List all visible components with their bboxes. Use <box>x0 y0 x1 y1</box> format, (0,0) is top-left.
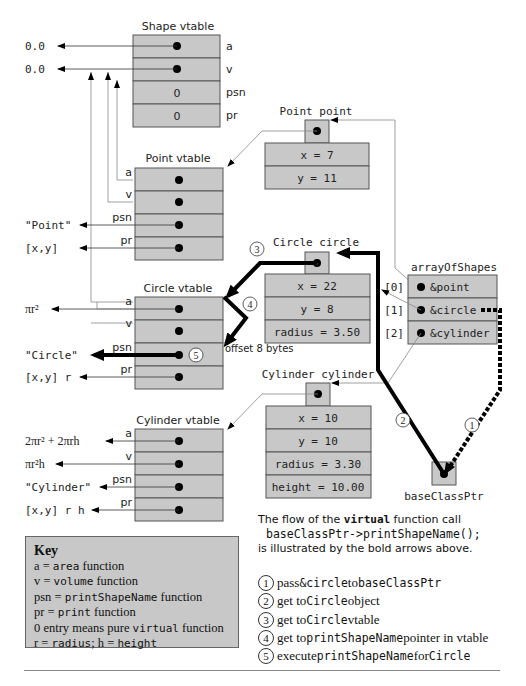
marker-3: 3 <box>255 244 260 255</box>
key-title: Key <box>34 543 230 559</box>
step-5: 5execute printShapeName for Circle <box>258 647 488 665</box>
slot-label-v: v <box>125 188 132 201</box>
array-value: &point <box>430 281 470 294</box>
field-height: height = 10.00 <box>272 481 365 494</box>
slot-label-v: v <box>125 317 132 330</box>
slot-label-a: a <box>226 40 233 53</box>
slot-label-a: a <box>125 295 132 308</box>
flow-call: baseClassPtr->printShapeName(); <box>258 527 526 541</box>
marker-4: 4 <box>248 299 253 310</box>
field-y: y = 8 <box>300 303 333 316</box>
cylinder-vtable: Cylinder vtable a v psn pr 2πr² + 2πrh π… <box>25 414 223 521</box>
marker-1: 1 <box>470 420 475 431</box>
slot-label-pr: pr <box>120 363 132 376</box>
point-vtable: Point vtable a v psn pr "Point" [x,y] <box>25 152 223 260</box>
cylinder-vtable-title: Cylinder vtable <box>136 414 220 427</box>
slot-label-a: a <box>125 427 132 440</box>
array-value: &cylinder <box>430 327 490 340</box>
slot-label-psn: psn <box>226 86 246 99</box>
field-radius: radius = 3.50 <box>274 326 360 339</box>
cylinder-area-result: 2πr² + 2πrh <box>25 434 79 448</box>
slot-label-v: v <box>226 63 233 76</box>
slot-label-pr: pr <box>120 496 132 509</box>
slot-label-pr: pr <box>226 109 238 122</box>
slot-label-a: a <box>125 166 132 179</box>
cylinder-object: Cylinder cylinder x = 10 y = 10 radius =… <box>228 368 375 498</box>
bottom-rule <box>24 670 500 671</box>
array-value: &circle <box>430 304 476 317</box>
cylinder-psn-result: "Cylinder" <box>25 481 91 494</box>
cylinder-object-title: Cylinder cylinder <box>262 368 375 381</box>
circle-vtable-title: Circle vtable <box>144 282 213 295</box>
flow-description: The flow of the virtual function call ba… <box>258 512 526 556</box>
base-class-ptr-label: baseClassPtr <box>404 490 484 503</box>
point-psn-result: "Point" <box>25 219 71 232</box>
key-line: psn = printShapeName function <box>34 590 230 606</box>
array-index: [1] <box>384 304 404 317</box>
flow-intro-end: is illustrated by the bold arrows above. <box>258 541 526 556</box>
point-vtable-title: Point vtable <box>145 152 210 165</box>
shape-vtable-pr-value: 0 <box>174 110 181 123</box>
cylinder-volume-result: πr²h <box>25 457 45 471</box>
step-4: 4get to printShapeName pointer in vtable <box>258 629 488 647</box>
field-y: y = 11 <box>297 172 337 185</box>
slot-label-v: v <box>125 450 132 463</box>
circle-area-result: πr² <box>25 302 39 316</box>
flow-steps: 1pass &circle to baseClassPtr 2get to Ci… <box>258 574 488 665</box>
flow-intro: The flow of the virtual function call <box>258 512 526 527</box>
key-line: r = radius; h = height <box>34 636 230 652</box>
step-2: 2get to Circle object <box>258 592 488 610</box>
shape-area-result: 0.0 <box>25 40 45 53</box>
slot-label-pr: pr <box>120 234 132 247</box>
array-of-shapes-title: arrayOfShapes <box>411 261 497 274</box>
step-1: 1pass &circle to baseClassPtr <box>258 574 488 592</box>
slot-label-psn: psn <box>112 473 132 486</box>
cylinder-pr-result: [x,y] r h <box>25 504 85 517</box>
circle-object-title: Circle circle <box>273 236 359 249</box>
base-class-ptr: baseClassPtr <box>404 462 484 503</box>
marker-5: 5 <box>194 350 199 361</box>
key-line: pr = print function <box>34 605 230 621</box>
shape-vtable-title: Shape vtable <box>142 20 215 33</box>
slot-label-psn: psn <box>112 211 132 224</box>
shape-vtable-psn-value: 0 <box>174 87 181 100</box>
array-index: [2] <box>384 327 404 340</box>
marker-2: 2 <box>401 415 406 426</box>
circle-psn-result: "Circle" <box>25 349 78 362</box>
key-line: v = volume function <box>34 574 230 590</box>
field-x: x = 10 <box>298 412 338 425</box>
field-x: x = 7 <box>300 149 333 162</box>
field-y: y = 10 <box>298 435 338 448</box>
slot-label-psn: psn <box>112 341 132 354</box>
field-x: x = 22 <box>297 280 337 293</box>
point-object-title: Point point <box>280 105 353 118</box>
shape-vtable: Shape vtable 0 0 a v psn pr 0.0 0.0 <box>25 20 246 127</box>
key-line: a = area function <box>34 559 230 575</box>
key-line: 0 entry means pure virtual function <box>34 621 230 637</box>
point-object: Point point x = 7 y = 11 <box>228 105 369 189</box>
step-3: 3get to Circle vtable <box>258 611 488 629</box>
field-radius: radius = 3.30 <box>275 458 361 471</box>
array-index: [0] <box>384 281 404 294</box>
shape-volume-result: 0.0 <box>25 63 45 76</box>
offset-note: offset 8 bytes <box>225 343 294 354</box>
point-pr-result: [x,y] <box>25 242 58 255</box>
circle-pr-result: [x,y] r <box>25 371 72 384</box>
key-box: Key a = area function v = volume functio… <box>25 536 239 648</box>
